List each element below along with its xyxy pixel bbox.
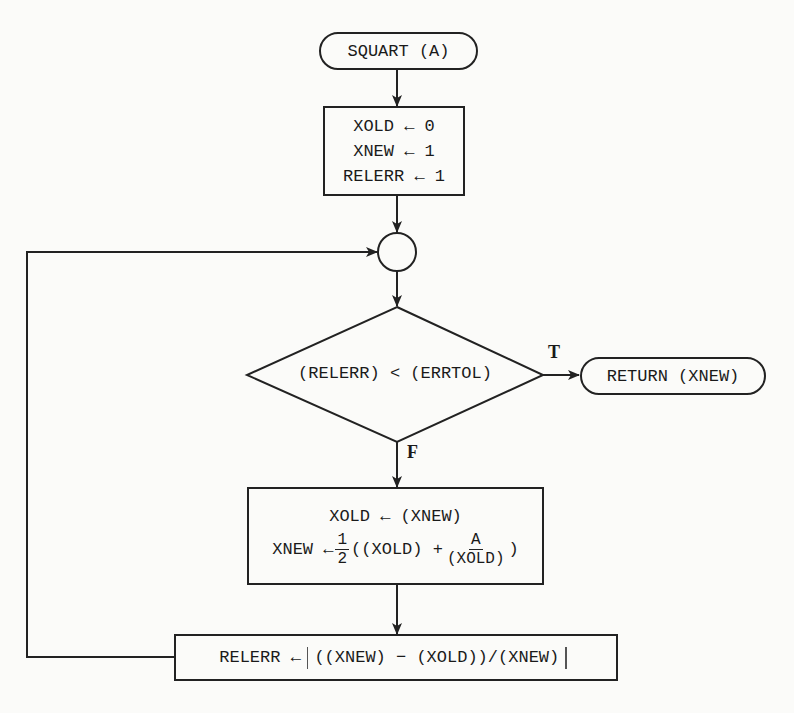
xnew-lhs: XNEW ← <box>272 537 333 562</box>
abs-bar-right <box>565 647 567 669</box>
update-line-xold: XOLD ← (XNEW) <box>329 504 462 529</box>
init-process-box: XOLD ← 0 XNEW ← 1 RELERR ← 1 <box>323 106 465 196</box>
update-line-xnew: XNEW ← 1 2 ((XOLD) + A (XOLD) ) <box>272 531 518 568</box>
xnew-close-paren: ) <box>509 537 519 562</box>
fraction-numerator: 1 <box>335 531 349 550</box>
update-process-box: XOLD ← (XNEW) XNEW ← 1 2 ((XOLD) + A (XO… <box>247 487 544 585</box>
xnew-sum: ((XOLD) + <box>351 537 443 562</box>
relerr-lhs: RELERR ← <box>219 645 301 670</box>
fraction-a-over-xold: A (XOLD) <box>445 531 507 568</box>
junction-connector-icon <box>378 233 416 271</box>
init-line-xnew: XNEW ← 1 <box>353 139 435 164</box>
fraction-one-half: 1 2 <box>335 531 349 568</box>
flowchart-canvas: SQUART (A) XOLD ← 0 XNEW ← 1 RELERR ← 1 … <box>0 0 794 713</box>
start-terminal: SQUART (A) <box>319 32 478 70</box>
fraction-denominator: 2 <box>335 550 349 568</box>
arrow-loop-back <box>27 252 377 657</box>
relerr-expression: ((XNEW) − (XOLD))/(XNEW) <box>314 645 559 670</box>
true-branch-label: T <box>548 342 560 363</box>
return-label: RETURN (XNEW) <box>607 364 740 389</box>
return-terminal: RETURN (XNEW) <box>580 357 766 395</box>
init-line-relerr: RELERR ← 1 <box>343 164 445 189</box>
abs-bar-left <box>307 647 309 669</box>
fraction-numerator: A <box>469 531 483 550</box>
false-branch-label: F <box>407 442 418 463</box>
decision-condition: (RELERR) < (ERRTOL) <box>247 364 543 383</box>
fraction-denominator: (XOLD) <box>445 550 507 568</box>
init-line-xold: XOLD ← 0 <box>353 114 435 139</box>
relerr-process-box: RELERR ← ((XNEW) − (XOLD))/(XNEW) <box>174 634 618 681</box>
start-label: SQUART (A) <box>347 39 449 64</box>
